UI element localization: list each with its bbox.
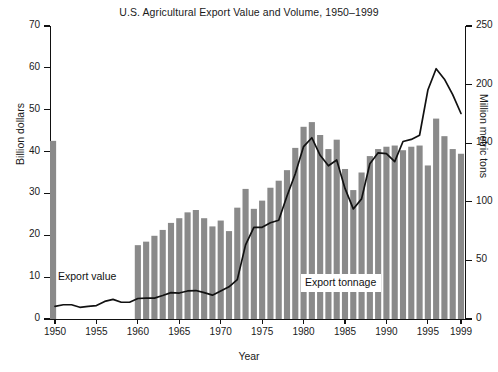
- bar: [251, 209, 257, 319]
- y-tick-label-left: 20: [6, 228, 40, 239]
- y-tick-label-left: 30: [6, 186, 40, 197]
- bar: [168, 223, 174, 319]
- x-tick: [137, 319, 138, 324]
- bar: [135, 245, 141, 319]
- chart-title: U.S. Agricultural Export Value and Volum…: [0, 6, 498, 18]
- bar: [218, 221, 224, 319]
- bar: [50, 141, 56, 319]
- bar: [408, 147, 414, 319]
- bar: [400, 150, 406, 319]
- y-tick-right: [466, 318, 472, 319]
- bar: [209, 226, 215, 319]
- y-tick-label-right: 100: [476, 195, 498, 206]
- bar: [185, 212, 191, 319]
- x-axis-title: Year: [0, 350, 498, 362]
- bar: [201, 218, 207, 319]
- y-tick-label-right: 0: [476, 312, 498, 323]
- x-tick-label: 1999: [441, 326, 481, 337]
- bar: [276, 181, 282, 319]
- bar: [375, 149, 381, 319]
- bar: [193, 210, 199, 319]
- bar: [226, 231, 232, 319]
- x-tick-label: 1955: [76, 326, 116, 337]
- bar: [433, 119, 439, 319]
- x-tick: [344, 319, 345, 324]
- x-tick-label: 1985: [325, 326, 365, 337]
- bar: [234, 208, 240, 319]
- x-tick: [427, 319, 428, 324]
- bar: [458, 154, 464, 319]
- x-tick: [220, 319, 221, 324]
- y-tick-label-right: 200: [476, 78, 498, 89]
- bar: [151, 236, 157, 319]
- y-tick-right: [466, 201, 472, 202]
- bar: [359, 173, 365, 320]
- bar: [325, 149, 331, 319]
- y-tick-label-left: 10: [6, 270, 40, 281]
- bar: [143, 242, 149, 319]
- y-tick-label-right: 150: [476, 136, 498, 147]
- bar: [425, 165, 431, 319]
- x-tick-label: 1965: [159, 326, 199, 337]
- y-tick-right: [466, 260, 472, 261]
- bar: [383, 147, 389, 319]
- chart-figure: U.S. Agricultural Export Value and Volum…: [0, 0, 498, 372]
- y-tick-label-right: 50: [476, 253, 498, 264]
- x-tick-label: 1960: [118, 326, 158, 337]
- y-tick-label-left: 0: [6, 312, 40, 323]
- bar: [267, 188, 273, 319]
- x-tick: [386, 319, 387, 324]
- x-tick-label: 1980: [284, 326, 324, 337]
- x-tick-label: 1970: [201, 326, 241, 337]
- bar: [441, 136, 447, 319]
- x-tick-label: 1950: [35, 326, 75, 337]
- y-tick-label-left: 60: [6, 61, 40, 72]
- x-tick-label: 1990: [366, 326, 406, 337]
- bar: [160, 230, 166, 319]
- x-tick: [54, 319, 55, 324]
- bar: [417, 146, 423, 319]
- y-tick-label-right: 250: [476, 19, 498, 30]
- y-axis-left-title: Billion dollars: [14, 74, 26, 194]
- y-tick-label-left: 70: [6, 19, 40, 30]
- annotation-export-tonnage: Export tonnage: [301, 274, 381, 292]
- y-tick-label-left: 50: [6, 103, 40, 114]
- x-tick: [262, 319, 263, 324]
- bar: [176, 218, 182, 319]
- bar: [450, 149, 456, 319]
- bar-series-export-tonnage: [50, 119, 464, 319]
- y-tick-right: [466, 143, 472, 144]
- x-tick-label: 1975: [242, 326, 282, 337]
- x-tick: [460, 319, 461, 324]
- bar: [259, 201, 265, 319]
- bar: [367, 156, 373, 319]
- x-tick: [303, 319, 304, 324]
- y-tick-label-left: 40: [6, 145, 40, 156]
- y-tick-right: [466, 84, 472, 85]
- annotation-export-value: Export value: [58, 270, 116, 283]
- x-tick: [179, 319, 180, 324]
- bar: [392, 146, 398, 319]
- y-tick-right: [466, 25, 472, 26]
- x-tick: [96, 319, 97, 324]
